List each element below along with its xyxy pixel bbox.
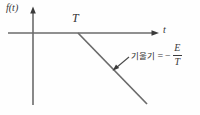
x-axis-label: t bbox=[163, 25, 166, 35]
y-axis-arrowhead-icon bbox=[30, 7, 36, 14]
slope-fraction: E T bbox=[173, 43, 182, 67]
annotation-pointer bbox=[113, 57, 130, 71]
y-axis-label: f(t) bbox=[6, 3, 18, 13]
minus-sign: − bbox=[165, 50, 171, 61]
equals-sign: = bbox=[157, 50, 163, 61]
t-breakpoint-label: T bbox=[72, 12, 79, 24]
slope-korean-label: 기울기 bbox=[131, 49, 154, 61]
x-axis-arrowhead-icon bbox=[152, 30, 160, 36]
graph-figure: f(t) T t 기울기 = − E T bbox=[0, 0, 200, 115]
fraction-denominator: T bbox=[173, 57, 181, 68]
y-axis bbox=[30, 7, 36, 106]
x-axis bbox=[8, 30, 159, 36]
slope-annotation: 기울기 = − E T bbox=[131, 43, 182, 67]
fraction-numerator: E bbox=[173, 43, 181, 54]
annotation-pointer-line bbox=[117, 57, 130, 68]
